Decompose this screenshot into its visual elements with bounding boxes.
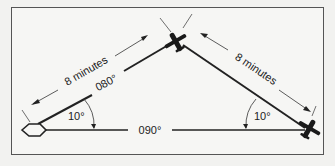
base-heading-label: 090° xyxy=(139,124,162,136)
hexagon-station-icon xyxy=(22,110,46,136)
leg2-angle-label: 10° xyxy=(254,110,271,122)
arrow-head-icon xyxy=(243,124,248,129)
leg2-arrow-right xyxy=(279,90,308,110)
arrow-head-icon xyxy=(141,35,148,41)
leg2-time-label: 8 minutes xyxy=(233,50,280,87)
top-aircraft-tick xyxy=(183,14,192,28)
leg1-heading-label: 080° xyxy=(93,72,119,93)
right-aircraft-tick xyxy=(312,106,316,116)
leg1-arrow-right xyxy=(115,37,146,56)
navigation-diagram: 090° 080° 8 minutes 10° 8 minutes 10° xyxy=(0,0,335,166)
arrow-head-icon xyxy=(31,99,40,105)
leg2-arrow-left xyxy=(205,36,228,50)
leg1-angle-arc xyxy=(84,99,94,128)
top-aircraft-tick xyxy=(160,18,171,32)
airplane-icon xyxy=(161,27,192,56)
arrow-head-icon xyxy=(91,124,96,129)
airplane-icon xyxy=(294,114,325,143)
leg1-angle-label: 10° xyxy=(68,110,85,122)
leg1-line-b xyxy=(124,44,170,71)
